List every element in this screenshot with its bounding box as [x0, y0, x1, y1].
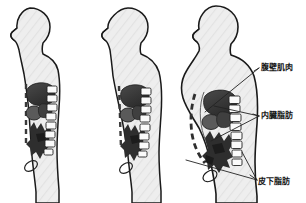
callout-label-subcutaneous-fat: 皮下脂肪 [258, 177, 290, 186]
figure-moderate [102, 8, 162, 203]
diagram-canvas: 腹壁肌肉 内臓脂肪 皮下脂肪 [0, 0, 306, 203]
callout-label-abdominal-wall: 腹壁肌肉 [261, 63, 293, 72]
figure-slim [11, 8, 60, 203]
callout-label-visceral-fat: 内臓脂肪 [261, 111, 293, 120]
body-figures-illustration [0, 0, 306, 203]
figure-obese [182, 6, 258, 203]
